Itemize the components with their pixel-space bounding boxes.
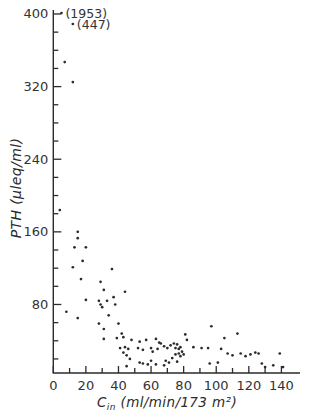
y-tick-label-80: 80	[32, 297, 49, 312]
data-point	[150, 359, 153, 362]
data-point	[146, 363, 149, 366]
data-point	[63, 61, 66, 64]
data-point	[174, 347, 177, 350]
data-point	[125, 354, 128, 357]
data-point	[142, 362, 145, 365]
data-point	[264, 366, 267, 369]
data-point	[76, 237, 79, 240]
data-point	[171, 357, 174, 360]
x-tick-label-120: 120	[236, 378, 261, 393]
data-point	[102, 289, 105, 292]
data-point	[76, 231, 79, 234]
data-point	[72, 266, 75, 269]
data-point	[85, 246, 88, 249]
data-point	[278, 352, 281, 355]
data-point	[76, 317, 79, 320]
data-point	[159, 342, 162, 345]
data-point	[102, 338, 105, 341]
data-point	[181, 350, 184, 353]
data-point	[106, 299, 109, 302]
x-tick-label-140: 140	[269, 378, 294, 393]
y-axis-title: PTH (µleq/ml)	[8, 138, 24, 239]
data-point	[208, 362, 211, 365]
data-point	[176, 360, 179, 363]
data-point	[58, 209, 61, 212]
data-point	[125, 365, 128, 368]
y-tick-label-160: 160	[23, 224, 48, 239]
data-point	[117, 322, 120, 325]
data-point	[72, 81, 75, 84]
data-point	[168, 361, 171, 364]
data-point	[73, 246, 76, 249]
data-point	[257, 352, 260, 355]
data-point	[122, 336, 125, 339]
data-point	[155, 363, 158, 366]
data-point	[115, 337, 118, 340]
data-point	[85, 299, 88, 302]
data-point	[119, 347, 122, 350]
data-point	[163, 364, 166, 367]
x-axis-title: Cin (ml/min/173 m²)	[97, 394, 237, 413]
data-point	[217, 361, 220, 364]
data-point	[249, 353, 252, 356]
data-point	[122, 351, 125, 354]
data-point	[150, 347, 153, 350]
data-point	[98, 322, 101, 325]
data-point	[107, 314, 110, 317]
data-point	[239, 352, 242, 355]
data-point	[124, 346, 127, 349]
data-point	[177, 352, 180, 355]
data-point	[166, 347, 169, 350]
data-point	[142, 349, 145, 352]
data-point	[179, 346, 182, 349]
data-point	[114, 303, 117, 306]
data-point	[174, 353, 177, 356]
data-point	[192, 346, 195, 349]
data-point	[138, 340, 141, 343]
data-point	[98, 299, 101, 302]
data-point	[210, 325, 213, 328]
pth-clearance-scatter-figure: 80160240320400020406080100120140(1953)(4…	[0, 0, 318, 418]
data-point	[129, 358, 132, 361]
y-tick-label-400: 400	[23, 6, 48, 21]
offscale-point	[60, 12, 63, 15]
data-point	[272, 364, 275, 367]
x-tick-label-40: 40	[110, 378, 127, 393]
data-point	[223, 337, 226, 340]
x-tick-label-60: 60	[143, 378, 160, 393]
x-tick-label-20: 20	[78, 378, 95, 393]
data-point	[124, 290, 127, 293]
x-tick-label-80: 80	[175, 378, 192, 393]
data-point	[220, 348, 223, 351]
data-point	[176, 343, 179, 346]
data-point	[151, 350, 154, 353]
data-point	[138, 361, 141, 364]
x-tick-label-0: 0	[49, 378, 57, 393]
data-point	[81, 260, 84, 263]
data-point	[184, 333, 187, 336]
data-point	[112, 296, 115, 299]
y-axis-title-text: PTH (µleq/ml)	[8, 138, 24, 239]
x-tick-label-100: 100	[204, 378, 229, 393]
data-point	[200, 347, 203, 350]
data-point	[173, 342, 176, 345]
data-point	[111, 268, 114, 271]
offscale-point-label: (447)	[77, 17, 111, 32]
data-point	[156, 348, 159, 351]
data-point	[254, 351, 257, 354]
data-point	[244, 355, 247, 358]
data-point	[130, 339, 133, 342]
data-point	[207, 347, 210, 350]
data-point	[261, 362, 264, 365]
data-point	[282, 366, 285, 369]
data-point	[137, 347, 140, 350]
data-point	[182, 353, 185, 356]
data-point	[145, 339, 148, 342]
offscale-point	[72, 23, 75, 26]
data-point	[179, 355, 182, 358]
data-point	[236, 332, 239, 335]
data-point	[155, 338, 158, 341]
x-axis-units: (ml/min/173 m²)	[120, 394, 237, 410]
data-point	[164, 359, 167, 362]
data-point	[101, 306, 104, 309]
